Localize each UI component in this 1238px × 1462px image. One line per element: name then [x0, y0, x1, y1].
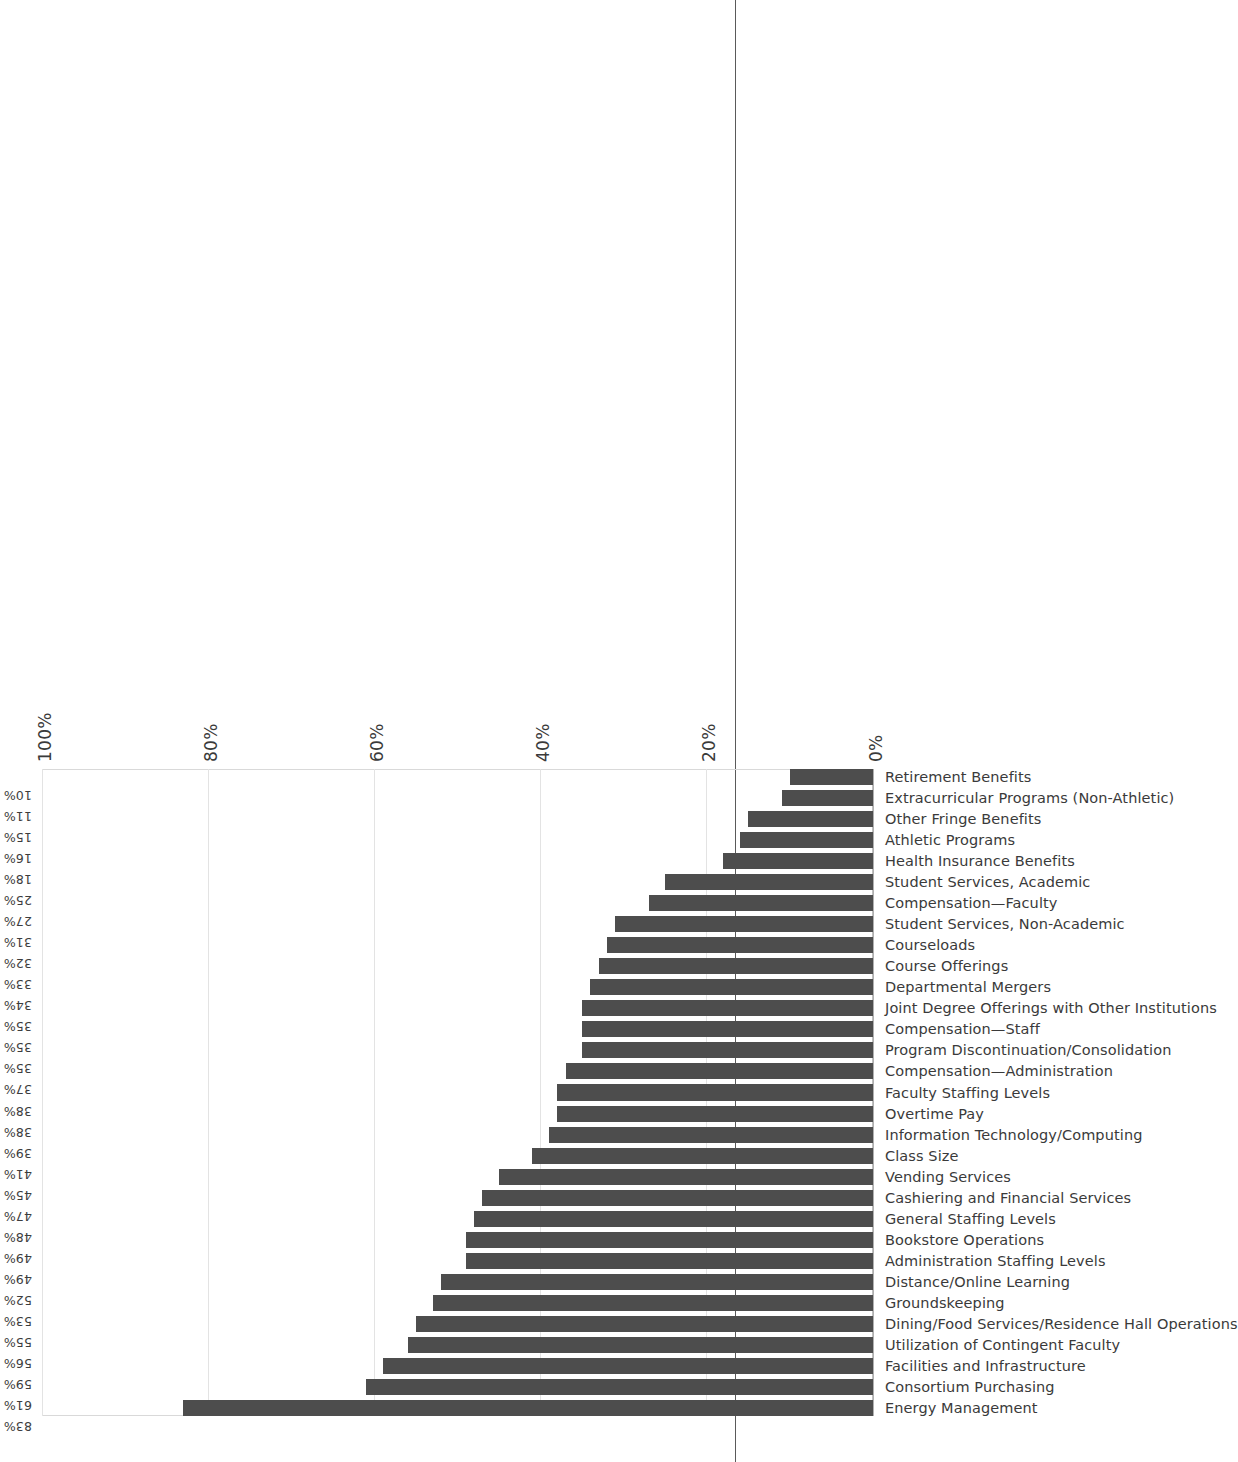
bar[interactable]	[366, 1379, 873, 1395]
bar[interactable]	[649, 895, 873, 911]
bar[interactable]	[599, 958, 873, 974]
bar-value-label: 45%	[4, 1188, 32, 1203]
bar-value-label-text: 53%	[4, 1314, 32, 1329]
bar-slot: 56%	[42, 1337, 873, 1353]
bar-value-label: 59%	[4, 1377, 32, 1392]
bar[interactable]	[607, 937, 873, 953]
bar-slot: 35%	[42, 1042, 873, 1058]
category-label[interactable]: General Staffing Levels	[885, 1211, 1056, 1227]
bar[interactable]	[748, 811, 873, 827]
bar[interactable]	[433, 1295, 873, 1311]
bar[interactable]	[416, 1316, 873, 1332]
bar-value-label: 18%	[4, 872, 32, 887]
bar[interactable]	[582, 1021, 873, 1037]
bar-value-label-text: 10%	[4, 788, 32, 803]
category-label[interactable]: Cashiering and Financial Services	[885, 1190, 1131, 1206]
bar[interactable]	[615, 916, 873, 932]
bar[interactable]	[466, 1253, 873, 1269]
bar-value-label: 11%	[4, 809, 32, 824]
bar-value-label-text: 16%	[4, 851, 32, 866]
bar-slot: 45%	[42, 1169, 873, 1185]
bar-slot: 52%	[42, 1274, 873, 1290]
category-label[interactable]: Athletic Programs	[885, 832, 1015, 848]
category-label[interactable]: Program Discontinuation/Consolidation	[885, 1042, 1171, 1058]
category-label[interactable]: Energy Management	[885, 1400, 1038, 1416]
bar-value-label-text: 15%	[4, 830, 32, 845]
bar-value-label-text: 49%	[4, 1251, 32, 1266]
category-label[interactable]: Bookstore Operations	[885, 1232, 1044, 1248]
category-label[interactable]: Administration Staffing Levels	[885, 1253, 1106, 1269]
bar[interactable]	[466, 1232, 873, 1248]
category-label[interactable]: Vending Services	[885, 1169, 1011, 1185]
bar[interactable]	[723, 853, 873, 869]
category-label[interactable]: Course Offerings	[885, 958, 1008, 974]
category-label[interactable]: Courseloads	[885, 937, 975, 953]
bar-slot: 37%	[42, 1063, 873, 1079]
bar-value-label-text: 35%	[4, 1020, 32, 1035]
bar-slot: 39%	[42, 1127, 873, 1143]
bar[interactable]	[499, 1169, 873, 1185]
bar-value-label-text: 83%	[4, 1419, 32, 1434]
bar-value-label-text: 38%	[4, 1104, 32, 1119]
axis-tick-40: 40%	[533, 723, 553, 762]
bar-value-label: 55%	[4, 1335, 32, 1350]
axis-baseline-0	[873, 769, 874, 1416]
bar[interactable]	[482, 1190, 873, 1206]
bar-slot: 31%	[42, 916, 873, 932]
category-label[interactable]: Extracurricular Programs (Non-Athletic)	[885, 790, 1174, 806]
bar-value-label: 15%	[4, 830, 32, 845]
category-label[interactable]: Health Insurance Benefits	[885, 853, 1075, 869]
bar[interactable]	[441, 1274, 873, 1290]
bar[interactable]	[549, 1127, 873, 1143]
category-label[interactable]: Faculty Staffing Levels	[885, 1085, 1050, 1101]
bar-value-label: 49%	[4, 1251, 32, 1266]
category-label[interactable]: Utilization of Contingent Faculty	[885, 1337, 1120, 1353]
bar[interactable]	[566, 1063, 873, 1079]
category-label[interactable]: Joint Degree Offerings with Other Instit…	[885, 1000, 1217, 1016]
category-label[interactable]: Groundskeeping	[885, 1295, 1005, 1311]
bar-value-label-text: 55%	[4, 1335, 32, 1350]
bar[interactable]	[782, 790, 873, 806]
bar[interactable]	[474, 1211, 873, 1227]
category-label[interactable]: Compensation—Administration	[885, 1063, 1113, 1079]
bar-value-label-text: 35%	[4, 1041, 32, 1056]
bar[interactable]	[665, 874, 873, 890]
bar-value-label-text: 49%	[4, 1272, 32, 1287]
bar-slot: 38%	[42, 1085, 873, 1101]
bar[interactable]	[383, 1358, 873, 1374]
bar[interactable]	[582, 1042, 873, 1058]
category-label[interactable]: Facilities and Infrastructure	[885, 1358, 1086, 1374]
category-label[interactable]: Other Fringe Benefits	[885, 811, 1041, 827]
bar-value-label: 47%	[4, 1209, 32, 1224]
category-label[interactable]: Class Size	[885, 1148, 959, 1164]
axis-tick-20: 20%	[699, 723, 719, 762]
category-label[interactable]: Distance/Online Learning	[885, 1274, 1070, 1290]
category-label[interactable]: Retirement Benefits	[885, 769, 1031, 785]
bar[interactable]	[183, 1400, 873, 1416]
category-label[interactable]: Information Technology/Computing	[885, 1127, 1142, 1143]
bar[interactable]	[557, 1106, 873, 1122]
bar[interactable]	[557, 1085, 873, 1101]
category-label[interactable]: Departmental Mergers	[885, 979, 1051, 995]
category-label[interactable]: Student Services, Academic	[885, 874, 1090, 890]
bar[interactable]	[582, 1000, 873, 1016]
bar-value-label-text: 52%	[4, 1293, 32, 1308]
category-label[interactable]: Dining/Food Services/Residence Hall Oper…	[885, 1316, 1238, 1332]
bar-value-label-text: 59%	[4, 1377, 32, 1392]
bar[interactable]	[532, 1148, 873, 1164]
bar[interactable]	[590, 979, 873, 995]
bar-value-label-text: 27%	[4, 914, 32, 929]
category-label[interactable]: Overtime Pay	[885, 1106, 984, 1122]
bar-value-label: 25%	[4, 893, 32, 908]
bar[interactable]	[740, 832, 873, 848]
category-label[interactable]: Compensation—Staff	[885, 1021, 1040, 1037]
category-label[interactable]: Consortium Purchasing	[885, 1379, 1055, 1395]
bar-value-label-text: 41%	[4, 1167, 32, 1182]
category-label[interactable]: Compensation—Faculty	[885, 895, 1058, 911]
axis-tick-100: 100%	[35, 712, 55, 762]
bar[interactable]	[408, 1337, 873, 1353]
bar-slot: 53%	[42, 1295, 873, 1311]
bar[interactable]	[790, 769, 873, 785]
category-label[interactable]: Student Services, Non-Academic	[885, 916, 1125, 932]
